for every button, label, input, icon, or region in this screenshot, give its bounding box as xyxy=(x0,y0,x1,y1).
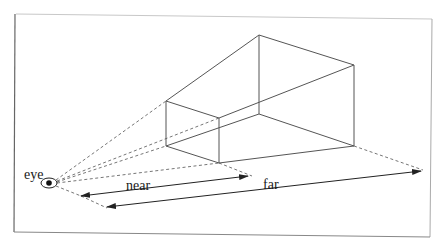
frustum-box xyxy=(166,35,354,163)
sight-line-lower xyxy=(56,186,81,196)
frustum-diagram: eye near far xyxy=(0,0,446,249)
near-plane xyxy=(166,101,219,163)
edge-bottom-right xyxy=(219,146,354,163)
sight-line-near-top-left xyxy=(56,101,166,180)
sight-line-near-top-right xyxy=(57,118,219,181)
edge-top-right xyxy=(219,65,354,118)
near-distance-arrow xyxy=(81,176,248,196)
near-label: near xyxy=(126,178,150,193)
far-plane xyxy=(259,35,354,146)
edge-bottom-left xyxy=(166,114,259,146)
sight-line-lower-ext xyxy=(81,196,107,208)
figure-frame xyxy=(14,14,432,237)
sight-line-near-bottom-left xyxy=(57,146,166,182)
sight-line-far-extension xyxy=(354,146,423,170)
far-label: far xyxy=(263,177,279,192)
edge-top-left xyxy=(166,35,259,101)
eye-label: eye xyxy=(24,167,43,182)
sight-line-near-extension xyxy=(219,163,252,176)
